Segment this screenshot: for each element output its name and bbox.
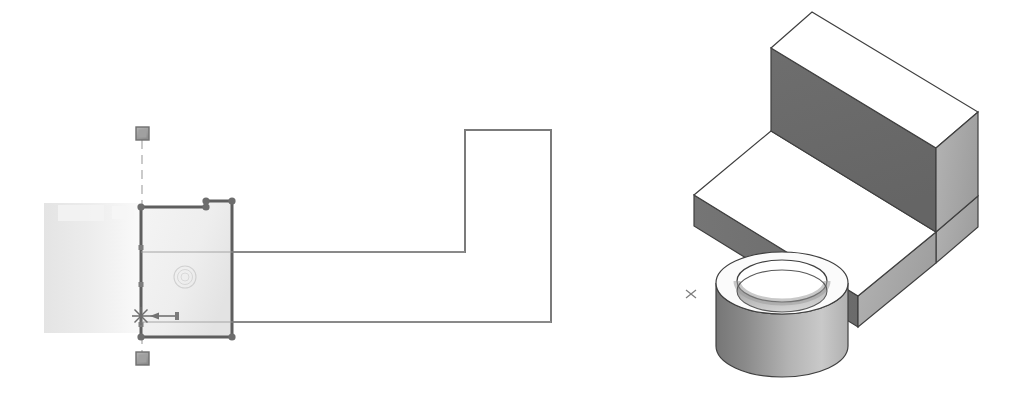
existing-body-ghost (44, 203, 142, 333)
vertex-bottom-right[interactable] (228, 333, 235, 340)
edge-tick-marker (686, 290, 696, 298)
vertex-bottom-left[interactable] (137, 333, 144, 340)
drag-handle-top[interactable] (136, 127, 149, 140)
extrude-preview-outline[interactable] (232, 130, 551, 322)
vertex-top-left[interactable] (137, 203, 144, 210)
drag-handle-bottom[interactable] (136, 352, 149, 365)
cad-viewport[interactable]: Extrude Sketch Profile Sketch Profile Vi… (0, 0, 1028, 415)
vertex-step-top[interactable] (202, 197, 209, 204)
sketch-panel[interactable] (44, 127, 551, 365)
ghost-highlight-streak-2 (112, 206, 134, 219)
sketch-origin-crosshair[interactable] (132, 307, 150, 325)
midpoint-left-upper[interactable] (139, 245, 144, 250)
midpoint-left-mid[interactable] (139, 282, 144, 287)
ghost-highlight-streak (58, 205, 104, 221)
vertex-top-right[interactable] (228, 197, 235, 204)
cad-canvas[interactable] (0, 0, 1028, 415)
model-panel[interactable] (686, 12, 978, 377)
